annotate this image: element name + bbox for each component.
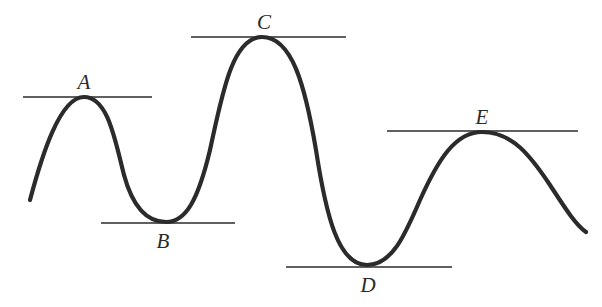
point-label-c: C: [257, 10, 272, 34]
point-label-e: E: [475, 105, 489, 129]
point-label-b: B: [157, 229, 170, 253]
point-label-a: A: [76, 70, 91, 94]
diagram-canvas: A B C D E: [0, 0, 602, 307]
extrema-diagram: A B C D E: [0, 0, 602, 307]
point-label-d: D: [359, 273, 375, 297]
energy-curve: [30, 37, 586, 265]
